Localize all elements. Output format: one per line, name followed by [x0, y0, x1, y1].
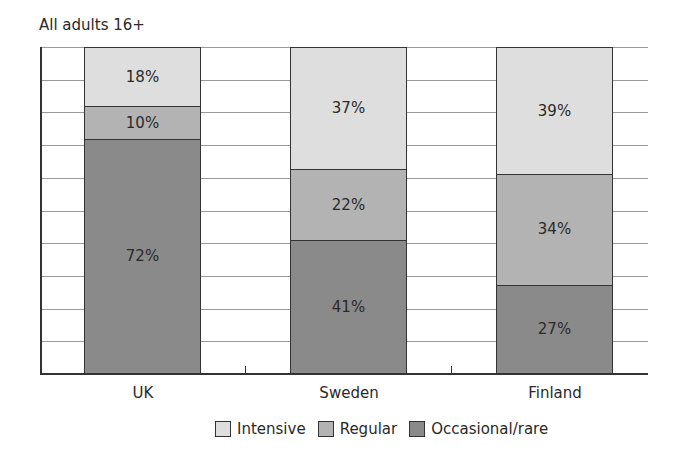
- value-label: 37%: [332, 99, 365, 117]
- segment-uk-occasional: 72%: [84, 139, 201, 374]
- value-label: 22%: [332, 196, 365, 214]
- chart-title: All adults 16+: [39, 16, 145, 34]
- bar-finland: 27% 34% 39%: [496, 47, 613, 374]
- value-label: 72%: [126, 247, 159, 265]
- x-tick: [245, 366, 246, 374]
- x-label-uk: UK: [73, 384, 213, 402]
- segment-sweden-occasional: 41%: [290, 240, 407, 374]
- plot-area: 72% 10% 18% 41% 22% 37% 27% 34% 39%: [40, 47, 648, 374]
- legend-swatch-occasional: [409, 421, 425, 437]
- legend-label: Regular: [340, 420, 398, 438]
- value-label: 41%: [332, 298, 365, 316]
- legend-label: Occasional/rare: [431, 420, 548, 438]
- x-label-sweden: Sweden: [279, 384, 419, 402]
- segment-uk-intensive: 18%: [84, 47, 201, 107]
- value-label: 10%: [126, 114, 159, 132]
- segment-uk-regular: 10%: [84, 106, 201, 140]
- x-label-finland: Finland: [485, 384, 625, 402]
- y-axis: [40, 47, 42, 374]
- value-label: 27%: [538, 320, 571, 338]
- value-label: 18%: [126, 68, 159, 86]
- legend-item-regular: Regular: [318, 420, 398, 438]
- legend-item-occasional: Occasional/rare: [409, 420, 548, 438]
- legend: Intensive Regular Occasional/rare: [215, 420, 560, 438]
- segment-finland-regular: 34%: [496, 173, 613, 286]
- bar-uk: 72% 10% 18%: [84, 47, 201, 374]
- segment-finland-intensive: 39%: [496, 47, 613, 175]
- legend-swatch-intensive: [215, 421, 231, 437]
- x-tick: [451, 366, 452, 374]
- value-label: 34%: [538, 220, 571, 238]
- segment-sweden-intensive: 37%: [290, 47, 407, 170]
- legend-label: Intensive: [237, 420, 306, 438]
- value-label: 39%: [538, 102, 571, 120]
- legend-item-intensive: Intensive: [215, 420, 306, 438]
- legend-swatch-regular: [318, 421, 334, 437]
- segment-sweden-regular: 22%: [290, 168, 407, 241]
- segment-finland-occasional: 27%: [496, 284, 613, 374]
- bar-sweden: 41% 22% 37%: [290, 47, 407, 374]
